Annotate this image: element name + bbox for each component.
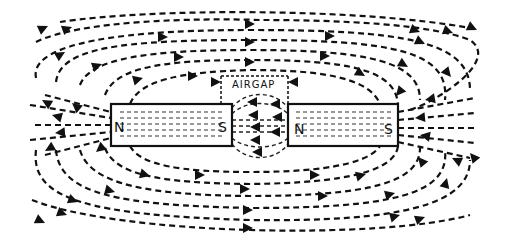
left-magnet-north-label: N [114,119,124,135]
field-lines-right-fan [398,98,478,158]
magnetic-field-diagram: N S N S AIRGAP [0,0,505,248]
field-lines-bottom [32,146,470,231]
left-magnet: N S [111,104,232,146]
right-magnet: N S [288,104,398,146]
airgap-label: AIRGAP [232,79,275,90]
right-magnet-north-label: N [294,121,304,137]
left-magnet-south-label: S [218,119,227,135]
right-magnet-south-label: S [384,121,393,137]
